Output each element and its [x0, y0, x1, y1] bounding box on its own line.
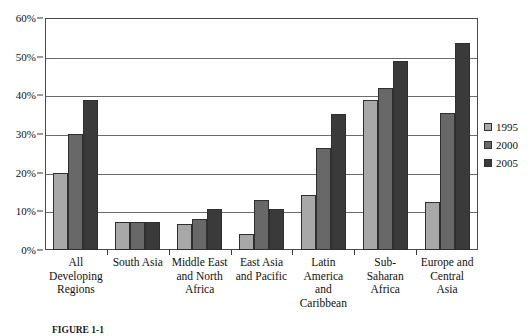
plot-area — [45, 18, 478, 250]
chart-legend: 199520002005 — [484, 118, 528, 172]
legend-label: 2005 — [496, 158, 518, 169]
gridline — [46, 96, 477, 97]
y-axis-tick-mark — [37, 18, 43, 19]
legend-item[interactable]: 2000 — [484, 136, 528, 154]
legend-item[interactable]: 1995 — [484, 118, 528, 136]
y-axis-tick-label: 60% — [16, 13, 36, 24]
gridline — [46, 135, 477, 136]
y-axis-tick-mark — [37, 172, 43, 173]
y-axis-tick-mark — [37, 250, 43, 251]
x-axis-tick-mark — [107, 250, 108, 255]
gridline — [46, 58, 477, 59]
gridline — [46, 212, 477, 213]
legend-label: 1995 — [496, 122, 518, 133]
gridlines — [46, 19, 477, 249]
y-axis-tick-label: 40% — [16, 90, 36, 101]
x-axis-tick-mark — [354, 250, 355, 255]
x-axis-category-label: Europe and Central Asia — [410, 256, 484, 297]
figure-caption: FIGURE 1-1 — [52, 325, 492, 336]
y-axis-tick-label: 0% — [21, 245, 36, 256]
y-axis: 0%10%20%30%40%50%60% — [0, 18, 43, 250]
gridline — [46, 174, 477, 175]
y-axis-tick-label: 30% — [16, 129, 36, 140]
y-axis-tick-label: 50% — [16, 51, 36, 62]
legend-swatch-icon — [484, 159, 492, 167]
legend-swatch-icon — [484, 141, 492, 149]
x-axis-tick-mark — [292, 250, 293, 255]
y-axis-tick-mark — [37, 95, 43, 96]
y-axis-tick-mark — [37, 211, 43, 212]
x-axis-tick-mark — [416, 250, 417, 255]
x-axis-tick-mark — [231, 250, 232, 255]
x-axis-tick-mark — [169, 250, 170, 255]
category-labels: All Developing RegionsSouth AsiaMiddle E… — [45, 256, 478, 328]
legend-item[interactable]: 2005 — [484, 154, 528, 172]
y-axis-tick-mark — [37, 56, 43, 57]
legend-swatch-icon — [484, 123, 492, 131]
y-axis-tick-label: 20% — [16, 167, 36, 178]
legend-label: 2000 — [496, 140, 518, 151]
y-axis-tick-label: 10% — [16, 206, 36, 217]
y-axis-tick-mark — [37, 134, 43, 135]
